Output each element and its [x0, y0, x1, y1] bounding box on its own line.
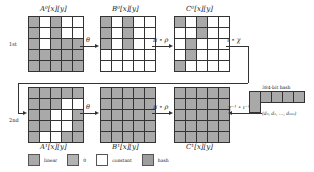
lane-cell-constant: [62, 28, 72, 38]
lane-cell-constant: [145, 61, 155, 71]
lane-cell-constant: [134, 17, 144, 27]
lane-cell-constant: [62, 121, 72, 131]
lane-cell-linear: [175, 121, 185, 131]
lane-cell-linear: [134, 110, 144, 120]
lane-cell-linear: [101, 28, 111, 38]
lane-cell-linear: [197, 132, 207, 142]
op-label-pi-rho-2: π ∘ ρ: [153, 103, 168, 111]
lane-cell-linear: [134, 99, 144, 109]
lane-cell-linear: [186, 121, 196, 131]
lane-cell-linear: [208, 99, 218, 109]
lane-cell-constant: [40, 17, 50, 27]
state-label-b1: B¹[x][y]: [112, 143, 139, 151]
lane-cell-constant: [186, 28, 196, 38]
lane-cell-linear: [175, 88, 185, 98]
lane-cell-constant: [51, 132, 61, 142]
lane-cell-linear: [29, 61, 39, 71]
legend: linear 0 constant hash: [28, 154, 175, 166]
state-label-a1: A¹[x][y]: [40, 143, 67, 151]
lane-cell-linear: [186, 99, 196, 109]
state-label-c0: C⁰[x][y]: [186, 5, 213, 13]
hash-cell: [294, 92, 304, 102]
lane-cell-linear: [175, 99, 185, 109]
hash-cell: [250, 102, 260, 112]
round-label-2nd: 2nd: [9, 117, 19, 123]
op-label-pi-rho-1: π ∘ ρ: [153, 36, 168, 44]
lane-cell-linear: [134, 88, 144, 98]
arrow-theta-2: [80, 113, 96, 114]
lane-cell-linear: [208, 121, 218, 131]
lane-cell-linear: [73, 121, 83, 131]
lane-cell-constant: [101, 61, 111, 71]
hash-cell: [261, 92, 271, 102]
lane-cell-constant: [123, 50, 133, 60]
state-label-c1: C¹[x][y]: [186, 143, 213, 151]
lane-cell-constant: [197, 61, 207, 71]
lane-cell-linear: [73, 110, 83, 120]
lane-cell-linear: [29, 121, 39, 131]
lane-cell-constant: [186, 61, 196, 71]
lane-cell-constant: [112, 50, 122, 60]
lane-cell-linear: [112, 88, 122, 98]
lane-cell-linear: [101, 132, 111, 142]
lane-cell-linear: [40, 99, 50, 109]
lane-cell-linear: [175, 132, 185, 142]
lane-cell-constant: [112, 28, 122, 38]
lane-cell-linear: [145, 132, 155, 142]
hash-title: 384-bit hash: [262, 85, 290, 90]
lane-cell-linear: [123, 88, 133, 98]
lane-cell-linear: [29, 88, 39, 98]
lane-cell-linear: [51, 39, 61, 49]
arrow-iota-chi-v1: [248, 46, 249, 83]
lane-cell-constant: [51, 121, 61, 131]
lane-cell-linear: [73, 50, 83, 60]
legend-swatch-constant: [96, 154, 108, 166]
lane-cell-linear: [51, 88, 61, 98]
lane-cell-constant: [112, 17, 122, 27]
lane-cell-constant: [219, 50, 229, 60]
lane-cell-linear: [123, 110, 133, 120]
lane-cell-linear: [29, 50, 39, 60]
legend-swatch-zero: [67, 154, 79, 166]
lane-cell-linear: [51, 50, 61, 60]
hash-cell: [250, 92, 260, 102]
lane-cell-linear: [112, 99, 122, 109]
lane-cell-constant: [208, 28, 218, 38]
lane-cell-constant: [134, 61, 144, 71]
state-grid-b0: [100, 16, 156, 72]
arrow-theta-1: [80, 46, 96, 47]
lane-cell-linear: [186, 110, 196, 120]
lane-cell-linear: [186, 88, 196, 98]
lane-cell-linear: [62, 88, 72, 98]
hash-cell: [283, 92, 293, 102]
state-grid-b1: [100, 87, 156, 143]
legend-label-constant: constant: [112, 158, 132, 163]
lane-cell-linear: [62, 50, 72, 60]
hash-digest-label: (d₀, d₁, …, d₃₈₃): [262, 111, 296, 116]
lane-cell-linear: [73, 132, 83, 142]
op-label-chi-inv: χ⁻¹ ∘ ι⁻¹: [228, 104, 250, 110]
lane-cell-constant: [219, 61, 229, 71]
lane-cell-constant: [175, 28, 185, 38]
op-label-theta-2: θ: [86, 103, 90, 111]
lane-cell-linear: [101, 121, 111, 131]
lane-cell-constant: [208, 17, 218, 27]
legend-label-hash: hash: [158, 158, 169, 163]
arrow-wrap-v: [18, 83, 19, 113]
state-label-b0: B⁰[x][y]: [112, 5, 139, 13]
lane-cell-constant: [186, 17, 196, 27]
lane-cell-constant: [112, 39, 122, 49]
lane-cell-linear: [40, 50, 50, 60]
lane-cell-constant: [145, 17, 155, 27]
lane-cell-linear: [101, 39, 111, 49]
lane-cell-linear: [208, 132, 218, 142]
lane-cell-linear: [123, 121, 133, 131]
arrowhead-theta-1: [95, 44, 99, 48]
lane-cell-constant: [208, 50, 218, 60]
lane-cell-constant: [51, 110, 61, 120]
lane-cell-linear: [112, 110, 122, 120]
lane-cell-constant: [62, 99, 72, 109]
lane-cell-linear: [29, 39, 39, 49]
lane-cell-constant: [73, 99, 83, 109]
state-grid-a1: [28, 87, 84, 143]
